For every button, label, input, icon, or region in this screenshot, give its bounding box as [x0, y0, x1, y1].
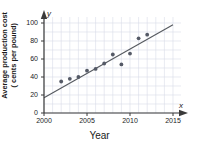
x-axis-variable-label: x: [179, 101, 183, 110]
y-tick-label: 100: [22, 19, 38, 26]
tick-marks: [41, 23, 173, 116]
y-tick-label: 80: [22, 37, 38, 44]
y-tick-label: 0: [22, 109, 38, 116]
y-axis-variable-label: y: [47, 9, 51, 18]
axes: [41, 10, 188, 116]
data-point: [128, 52, 132, 56]
x-tick-label: 2010: [117, 117, 143, 124]
data-point: [94, 67, 98, 71]
x-tick-label: 2000: [31, 117, 57, 124]
data-point: [68, 77, 72, 81]
x-tick-label: 2005: [74, 117, 100, 124]
trend-line: [44, 25, 173, 98]
scatter-plot-figure: Average production cost ( cents per poun…: [0, 0, 199, 149]
y-tick-label: 60: [22, 55, 38, 62]
y-tick-label: 40: [22, 73, 38, 80]
y-tick-label: 20: [22, 91, 38, 98]
data-point: [111, 53, 115, 57]
data-point: [77, 75, 81, 79]
x-axis-label: Year: [0, 130, 199, 141]
y-axis-label-line-1: Average production cost: [1, 12, 8, 99]
data-point: [137, 36, 141, 40]
y-axis-label-line-2: ( cents per pound): [10, 23, 17, 87]
data-point: [120, 63, 124, 67]
x-tick-label: 2015: [160, 117, 186, 124]
data-point: [59, 80, 63, 84]
data-point: [145, 33, 149, 37]
data-point: [102, 62, 106, 66]
data-point: [85, 69, 89, 73]
